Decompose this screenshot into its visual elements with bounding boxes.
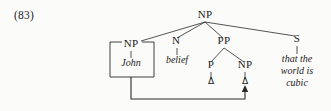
node-label-np-subject: NP [124, 37, 139, 49]
terminal-belief: belief [166, 54, 189, 65]
movement-path [131, 77, 245, 99]
node-label-s: S [294, 32, 300, 44]
node-label-np-object: NP [238, 58, 253, 70]
trace-triangle-p: Δ [208, 76, 215, 86]
syntax-tree: NP NP N PP S P NP John belief Δ Δ that t… [0, 0, 331, 111]
terminal-s-line-2: world is [281, 65, 314, 76]
trace-triangle-np: Δ [242, 76, 249, 86]
branch-root-to-n [177, 22, 205, 38]
movement-arrow [131, 77, 248, 99]
terminal-s-line-1: that the [282, 53, 313, 64]
node-label-p: P [208, 58, 214, 70]
movement-arrowhead-icon [242, 85, 248, 92]
node-label-root-np: NP [198, 8, 213, 20]
node-label-pp: PP [218, 34, 231, 46]
terminal-s-line-3: cubic [286, 77, 308, 88]
figure-canvas: (83) NP [0, 0, 331, 111]
terminal-john: John [121, 57, 140, 68]
node-label-n: N [172, 34, 180, 46]
